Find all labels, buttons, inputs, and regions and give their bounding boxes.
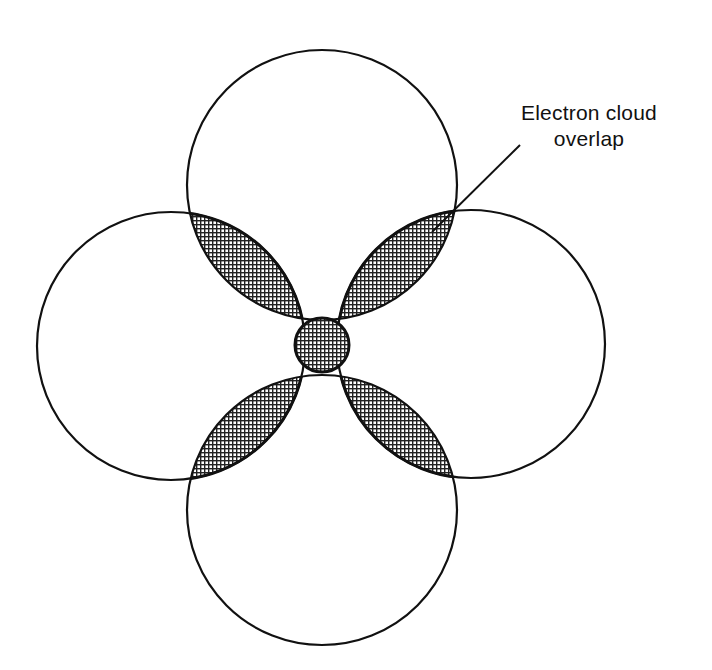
annotation-label: Electron cloud overlap — [494, 100, 684, 152]
central-atom-circle — [295, 318, 349, 372]
annotation-line-1: Electron cloud — [494, 100, 684, 126]
annotation-leader-line — [432, 145, 520, 232]
annotation-line-2: overlap — [494, 126, 684, 152]
